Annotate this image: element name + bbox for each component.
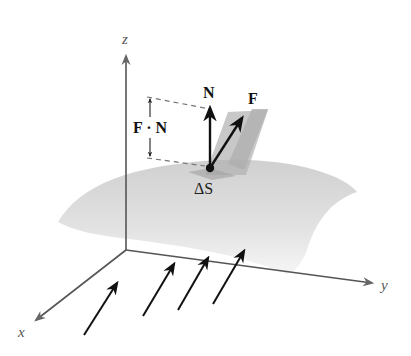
flux-diagram: z y x F · N N F <box>0 0 411 356</box>
x-axis-label: x <box>17 324 25 340</box>
y-axis-label: y <box>379 277 388 293</box>
normal-label: N <box>203 84 215 101</box>
z-axis-label: z <box>121 31 128 47</box>
flow-arrow-3 <box>178 258 208 310</box>
field-label: F <box>248 90 258 107</box>
flow-arrow-4 <box>213 251 244 304</box>
flow-arrow-1 <box>84 283 117 335</box>
area-element-label: ΔS <box>194 180 213 197</box>
dot-product-indicator: F · N <box>133 99 168 156</box>
dot-product-label: F · N <box>133 119 168 136</box>
flow-arrow-2 <box>143 264 174 316</box>
